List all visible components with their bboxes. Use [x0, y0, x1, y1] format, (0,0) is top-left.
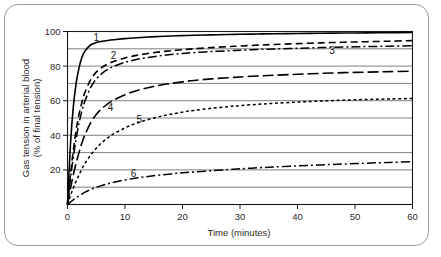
curve-labels: 123456	[93, 32, 335, 179]
curve-2	[68, 41, 413, 205]
y-tick-labels: 20406080100	[45, 26, 61, 175]
curve-label-3: 3	[329, 45, 335, 56]
curve-label-1: 1	[93, 32, 99, 43]
y-axis-title-line2: (% of final tension)	[31, 79, 42, 158]
y-axis-title-line1: Gas tension in arterial blood	[20, 59, 31, 177]
x-tick-label-60: 60	[407, 211, 418, 222]
figure-container: 123456 0102030405060 20406080100 Time (m…	[0, 0, 441, 257]
curve-5	[68, 98, 413, 204]
x-tick-label-20: 20	[177, 211, 188, 222]
x-axis-title: Time (minutes)	[208, 227, 271, 238]
curve-label-2: 2	[111, 50, 117, 61]
x-tick-label-30: 30	[235, 211, 246, 222]
y-axis-ticks	[63, 32, 68, 170]
curve-label-5: 5	[137, 114, 143, 125]
chart-canvas: 123456 0102030405060 20406080100 Time (m…	[0, 0, 441, 257]
curve-6	[68, 162, 413, 205]
x-tick-labels: 0102030405060	[65, 211, 418, 222]
x-tick-label-0: 0	[65, 211, 70, 222]
x-tick-label-40: 40	[292, 211, 303, 222]
x-axis-ticks	[68, 205, 413, 210]
curve-label-6: 6	[131, 168, 137, 179]
y-tick-label-20: 20	[50, 164, 61, 175]
gridlines	[68, 49, 413, 187]
x-tick-label-10: 10	[120, 211, 131, 222]
curve-4	[68, 71, 413, 204]
x-tick-label-50: 50	[350, 211, 361, 222]
y-tick-label-60: 60	[50, 95, 61, 106]
y-tick-label-100: 100	[45, 26, 61, 37]
y-tick-label-80: 80	[50, 61, 61, 72]
y-tick-label-40: 40	[50, 130, 61, 141]
curve-1	[68, 33, 413, 205]
data-curves	[68, 33, 413, 205]
curve-label-4: 4	[108, 102, 114, 113]
